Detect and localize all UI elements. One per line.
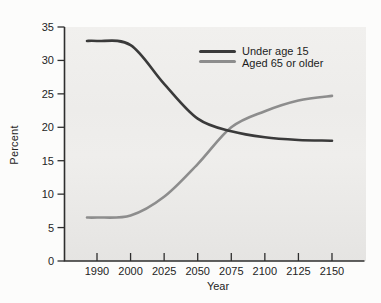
under-age-15-line-swatch-icon bbox=[199, 50, 236, 53]
y-tick-label: 30 bbox=[42, 54, 54, 66]
y-tick-label: 15 bbox=[42, 155, 54, 167]
x-tick-label: 2100 bbox=[253, 265, 277, 277]
x-tick-label: 2125 bbox=[286, 265, 310, 277]
y-tick-label: 0 bbox=[48, 255, 54, 267]
legend-item-under-age-15: Under age 15 bbox=[199, 46, 323, 58]
y-axis-title: Percent bbox=[8, 125, 20, 164]
legend-label-under-age-15: Under age 15 bbox=[242, 46, 309, 58]
legend: Under age 15 Aged 65 or older bbox=[199, 46, 323, 69]
x-axis-title: Year bbox=[207, 280, 229, 292]
x-tick-label: 1990 bbox=[85, 265, 109, 277]
y-tick-label: 5 bbox=[48, 222, 54, 234]
legend-item-aged-65-or-older: Aged 65 or older bbox=[199, 58, 323, 70]
y-tick-label: 10 bbox=[42, 188, 54, 200]
population-age-chart-figure: 0510152025303519902000202520502075210021… bbox=[0, 0, 381, 303]
y-tick-label: 35 bbox=[42, 21, 54, 33]
x-tick-label: 2025 bbox=[152, 265, 176, 277]
chart-canvas: 0510152025303519902000202520502075210021… bbox=[0, 0, 381, 303]
x-tick-label: 2050 bbox=[185, 265, 209, 277]
x-tick-label: 2075 bbox=[219, 265, 243, 277]
x-tick-label: 2000 bbox=[118, 265, 142, 277]
aged-65-or-older-line-swatch-icon bbox=[199, 60, 236, 63]
x-tick-label: 2150 bbox=[320, 265, 344, 277]
y-tick-label: 25 bbox=[42, 88, 54, 100]
y-tick-label: 20 bbox=[42, 121, 54, 133]
legend-label-aged-65-or-older: Aged 65 or older bbox=[242, 58, 323, 70]
